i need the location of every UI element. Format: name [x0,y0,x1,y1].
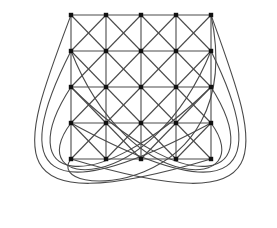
graph-node [174,121,178,125]
graph-node [209,13,213,17]
graph-node [69,121,73,125]
graph-node [174,157,178,161]
graph-node [104,121,108,125]
grid-graph-diagram [0,0,277,228]
graph-node [104,157,108,161]
graph-node [69,85,73,89]
graph-node [104,49,108,53]
graph-node [209,85,213,89]
graph-node [139,13,143,17]
wrap-edge [42,51,211,172]
graph-node [104,13,108,17]
graph-node [174,49,178,53]
graph-node [69,13,73,17]
graph-node [209,49,213,53]
graph-node [139,157,143,161]
graph-node [69,49,73,53]
graph-node [104,85,108,89]
graph-node [174,85,178,89]
graph-node [174,13,178,17]
graph-node [139,121,143,125]
graph-node [209,121,213,125]
graph-node [209,157,213,161]
graph-node [139,85,143,89]
graph-node [69,157,73,161]
wrap-edge [71,51,239,172]
graph-node [139,49,143,53]
